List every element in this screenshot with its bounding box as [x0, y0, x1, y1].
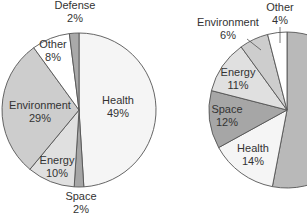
- pie-charts: Health49%Space2%Energy10%Environment29%O…: [0, 0, 307, 216]
- slice-label-space: Space12%: [211, 103, 242, 128]
- right-pie-chart: Health14%Space12%Energy11%Environment6%O…: [197, 1, 307, 188]
- slice-label-other: Other4%: [266, 1, 294, 26]
- left-pie-chart: Health49%Space2%Energy10%Environment29%O…: [2, 0, 156, 215]
- slice-label-environment: Environment6%: [197, 16, 259, 41]
- slice-label-defense: Defense2%: [55, 0, 96, 24]
- chart-stage: Health49%Space2%Energy10%Environment29%O…: [0, 0, 307, 216]
- slice-label-space: Space2%: [65, 190, 96, 215]
